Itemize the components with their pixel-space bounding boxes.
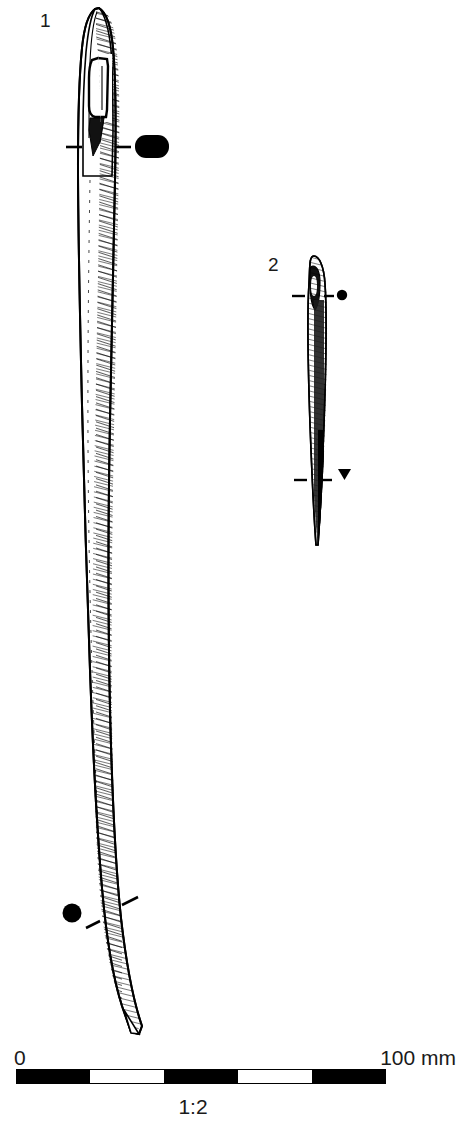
scale-ratio-label: 1:2 — [0, 1096, 462, 1117]
section-tick-left — [86, 921, 100, 928]
artefact-2-lower-section-shape — [338, 469, 351, 480]
scale-segment-3 — [164, 1070, 238, 1083]
artefact-2-number-label: 2 — [268, 255, 279, 274]
scale-segment-1 — [16, 1070, 90, 1083]
scale-segment-2 — [90, 1070, 164, 1083]
scale-max-label: 100 mm — [380, 1047, 456, 1068]
artefact-1-upper-section-shape — [135, 135, 169, 158]
scale-segment-5 — [312, 1070, 386, 1083]
scale-segment-4 — [238, 1070, 312, 1083]
artefact-1-number-label: 1 — [40, 11, 51, 30]
artefact-1 — [63, 6, 170, 1038]
scale-min-label: 0 — [14, 1047, 26, 1068]
artefact-2-upper-section-shape — [337, 290, 347, 300]
artefact-1-lower-section-shape — [63, 904, 82, 923]
artefact-drawing-svg — [0, 0, 462, 1148]
figure-canvas: 1 2 0 100 mm 1:2 — [0, 0, 462, 1148]
scale-ratio-value: 1:2 — [178, 1096, 283, 1117]
artefact-1-lower-section-indicator — [63, 897, 139, 928]
section-tick-right — [122, 897, 138, 905]
artefact-2 — [292, 256, 351, 548]
